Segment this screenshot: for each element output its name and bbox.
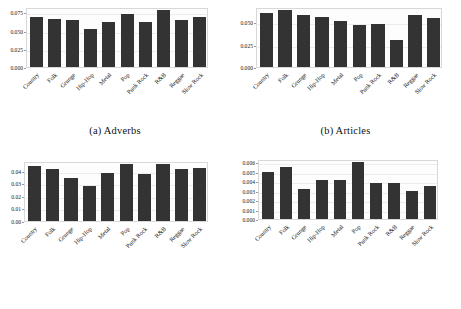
x-tick-label: Folk [276,71,289,84]
y-tick-label: 0.02 [0,194,21,200]
bar [48,19,61,67]
bar [334,21,347,67]
plot-area-c: 0.000.010.020.030.04CountryFolkGrungeHip… [0,150,230,268]
caption-b: (b) Articles [230,125,461,136]
y-tick-label: 0.025 [0,47,23,53]
bar [193,168,206,221]
gridline [259,164,437,165]
y-tick-label: 0.002 [230,198,255,204]
bar [352,162,365,219]
y-tick-mark [22,209,24,210]
bar [278,10,291,67]
figure-multi-panel-bar-charts: 0.0000.0250.0500.075CountryFolkGrungeHip… [0,0,461,309]
gridline [27,14,207,15]
y-tick-label: 0.000 [230,217,255,223]
y-tick-mark [256,163,258,164]
chart-axes [26,8,208,68]
y-tick-label: 0.025 [230,43,253,49]
y-tick-label: 0.005 [230,170,255,176]
x-tick-label: Country [19,225,38,244]
chart-axes [24,162,208,222]
bar [156,164,169,221]
y-tick-label: 0.006 [230,160,255,166]
y-tick-label: 0.000 [0,65,23,71]
panel-b-articles: 0.0000.0250.050CountryFolkGrungeHip-HopM… [230,0,461,150]
bar [388,183,401,219]
y-tick-mark [254,23,256,24]
bar [406,191,419,219]
bar [46,169,59,221]
bar [175,169,188,221]
y-tick-mark [254,68,256,69]
bar [102,22,115,67]
x-tick-label: Hip-Hop [306,71,327,92]
y-tick-mark [254,46,256,47]
bar [390,40,403,67]
bar [408,15,421,67]
panel-c-modals: 0.000.010.020.030.04CountryFolkGrungeHip… [0,150,230,309]
x-tick-label: Country [251,71,270,90]
x-tick-label: Pop [119,71,131,83]
y-tick-mark [22,184,24,185]
y-tick-label: 0.050 [230,20,253,26]
bar [424,186,437,219]
x-tick-label: Pop [118,225,130,237]
bar [30,17,43,67]
bar [139,22,152,67]
x-tick-label: Country [253,223,272,242]
bar [334,180,347,219]
y-tick-mark [22,222,24,223]
x-tick-label: Hip-Hop [74,71,95,92]
y-tick-label: 0.000 [230,65,253,71]
bar [157,10,170,67]
x-tick-label: R&B [153,71,167,85]
bar [101,173,114,221]
bar [262,172,275,219]
bar [260,13,273,67]
x-tick-label: Metal [329,71,344,86]
y-tick-label: 0.04 [0,169,21,175]
x-tick-label: Folk [45,71,58,84]
y-tick-mark [256,220,258,221]
x-tick-label: Country [21,71,40,90]
panel-d-rel-pronouns: 0.0000.0010.0020.0030.0040.0050.006Count… [230,150,461,309]
x-tick-label: Metal [98,71,113,86]
x-tick-label: R&B [153,225,167,239]
x-tick-label: R&B [386,71,400,85]
bar [66,20,79,67]
y-tick-mark [256,192,258,193]
y-tick-mark [24,13,26,14]
y-tick-mark [24,68,26,69]
y-tick-mark [256,182,258,183]
chart-axes [256,8,442,68]
y-tick-label: 0.003 [230,189,255,195]
bar [427,18,440,67]
y-tick-label: 0.01 [0,206,21,212]
bar [28,166,41,221]
caption-a: (a) Adverbs [0,125,230,136]
plot-area-d: 0.0000.0010.0020.0030.0040.0050.006Count… [230,150,461,268]
x-tick-label: Metal [329,223,344,238]
x-tick-label: Pop [351,71,363,83]
x-tick-label: R&B [384,223,398,237]
bar [280,167,293,219]
plot-area-b: 0.0000.0250.050CountryFolkGrungeHip-HopM… [230,0,461,118]
bar [370,183,383,219]
bar [371,24,384,67]
y-tick-mark [22,172,24,173]
bar [121,14,134,67]
bar [84,29,97,67]
y-tick-mark [24,50,26,51]
bar [83,186,96,221]
bar [297,15,310,67]
y-tick-label: 0.075 [0,10,23,16]
chart-axes [258,160,438,220]
x-tick-label: Pop [350,223,362,235]
y-tick-mark [256,211,258,212]
bar [316,180,329,219]
y-tick-mark [256,201,258,202]
y-tick-mark [256,173,258,174]
y-tick-label: 0.03 [0,181,21,187]
bar [353,25,366,67]
x-tick-label: Folk [44,225,57,238]
